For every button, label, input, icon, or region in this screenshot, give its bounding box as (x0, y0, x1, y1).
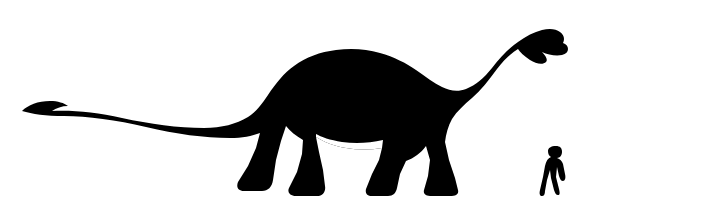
silhouette-scene (0, 0, 707, 213)
size-comparison-figure (0, 0, 707, 213)
silhouette-canvas (0, 0, 707, 213)
